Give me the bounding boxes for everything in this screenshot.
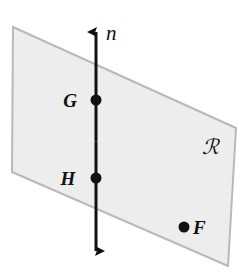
point-F-label: F — [192, 217, 206, 238]
geometry-diagram: n G H F ℛ — [0, 0, 249, 277]
geometry-canvas: n G H F ℛ — [0, 0, 249, 277]
point-H-dot — [91, 173, 102, 184]
point-F-dot — [179, 222, 190, 233]
point-G-dot — [91, 95, 102, 106]
point-G-label: G — [63, 90, 77, 111]
point-H-label: H — [60, 168, 77, 189]
line-n-label: n — [106, 21, 117, 45]
plane-R-label: ℛ — [202, 135, 220, 159]
